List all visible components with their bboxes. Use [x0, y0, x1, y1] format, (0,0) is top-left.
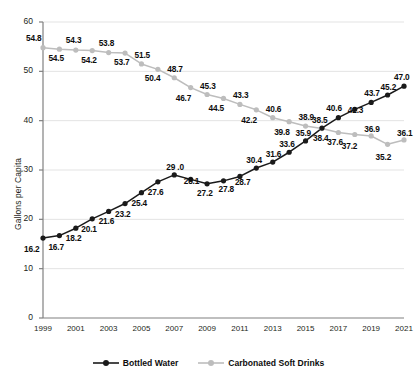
- legend-label-bottled-water: Bottled Water: [123, 358, 179, 368]
- y-tick-label: 40: [9, 115, 33, 125]
- data-point: [204, 181, 209, 186]
- data-point: [40, 235, 45, 240]
- y-tick-label: 30: [9, 164, 33, 174]
- data-label: 45.2: [381, 82, 397, 92]
- x-tick-label: 2011: [223, 324, 257, 333]
- data-point: [221, 96, 226, 101]
- data-label: 50.4: [145, 73, 161, 83]
- data-point: [57, 47, 62, 52]
- data-label: 53.8: [99, 38, 115, 48]
- y-tick-label: 10: [9, 263, 33, 273]
- data-point: [106, 50, 111, 55]
- data-point: [385, 92, 390, 97]
- data-point: [369, 133, 374, 138]
- data-label: 37.2: [342, 141, 358, 151]
- data-label: 31.6: [266, 149, 282, 159]
- data-label: 20.1: [81, 224, 97, 234]
- data-label: 36.1: [397, 128, 413, 138]
- data-point: [90, 48, 95, 53]
- legend-item-carbonated-soft-drinks[interactable]: Carbonated Soft Drinks: [198, 358, 324, 368]
- data-point: [270, 160, 275, 165]
- data-point: [172, 172, 177, 177]
- data-label: 54.3: [66, 35, 82, 45]
- data-label: 28.7: [235, 177, 251, 187]
- data-point: [73, 48, 78, 53]
- data-point: [188, 85, 193, 90]
- x-tick-label: 2019: [354, 324, 388, 333]
- data-label: 42.3: [348, 105, 364, 115]
- legend-marker-bottled-water: [93, 358, 119, 368]
- data-label: 25.4: [131, 198, 147, 208]
- data-label: 18.2: [66, 233, 82, 243]
- data-label: 23.2: [115, 209, 131, 219]
- x-tick-label: 2009: [190, 324, 224, 333]
- data-point: [172, 75, 177, 80]
- data-label: 43.7: [364, 88, 380, 98]
- data-label: 30.4: [246, 155, 262, 165]
- data-label: 46.7: [176, 93, 192, 103]
- data-point: [122, 50, 127, 55]
- data-point: [369, 100, 374, 105]
- data-label: 27.8: [219, 184, 235, 194]
- data-label: 53.7: [114, 57, 130, 67]
- x-tick-label: 2007: [157, 324, 191, 333]
- data-point: [155, 67, 160, 72]
- data-point: [287, 150, 292, 155]
- data-label: 47.0: [394, 72, 410, 82]
- data-point: [73, 226, 78, 231]
- data-point: [57, 233, 62, 238]
- data-point: [139, 190, 144, 195]
- data-label: 45.3: [200, 81, 216, 91]
- data-label: 38.9: [299, 112, 315, 122]
- data-point: [401, 84, 406, 89]
- data-label: 27.6: [148, 187, 164, 197]
- data-point: [106, 209, 111, 214]
- data-label: 40.6: [326, 103, 342, 113]
- x-tick-label: 2005: [124, 324, 158, 333]
- data-point: [90, 216, 95, 221]
- data-label: 38.4: [313, 133, 329, 143]
- y-tick-label: 60: [9, 16, 33, 26]
- data-point: [336, 115, 341, 120]
- data-label: 43.3: [233, 90, 249, 100]
- x-tick-label: 1999: [26, 324, 60, 333]
- data-label: 35.9: [296, 128, 312, 138]
- data-label: 33.6: [279, 139, 295, 149]
- data-label: 42.2: [241, 115, 257, 125]
- data-point: [336, 130, 341, 135]
- x-tick-label: 2015: [289, 324, 323, 333]
- data-point: [155, 179, 160, 184]
- data-label: 51.5: [134, 50, 150, 60]
- y-tick-label: 50: [9, 65, 33, 75]
- data-label: 21.6: [99, 216, 115, 226]
- data-point: [221, 178, 226, 183]
- data-point: [40, 45, 45, 50]
- data-point: [122, 201, 127, 206]
- data-label: 48.7: [167, 64, 183, 74]
- data-label: 54.2: [81, 55, 97, 65]
- data-label: 16.2: [24, 244, 40, 254]
- data-label: 54.5: [48, 53, 64, 63]
- data-label: 28.1: [184, 176, 200, 186]
- data-label: 36.9: [364, 124, 380, 134]
- x-tick-label: 2021: [387, 324, 417, 333]
- data-label: 54.8: [26, 33, 42, 43]
- x-tick-label: 2013: [256, 324, 290, 333]
- data-point: [237, 102, 242, 107]
- chart-container: Gallons per Capita 010203040506019992001…: [0, 0, 417, 381]
- data-label: 35.2: [376, 152, 392, 162]
- data-point: [303, 138, 308, 143]
- data-label: 16.7: [48, 242, 64, 252]
- data-label: 38.5: [312, 115, 328, 125]
- x-tick-label: 2003: [92, 324, 126, 333]
- data-point: [352, 132, 357, 137]
- y-tick-label: 20: [9, 213, 33, 223]
- x-tick-label: 2001: [59, 324, 93, 333]
- legend-item-bottled-water[interactable]: Bottled Water: [93, 358, 179, 368]
- data-label: 37.6: [327, 137, 343, 147]
- y-tick-label: 0: [9, 312, 33, 322]
- data-point: [204, 92, 209, 97]
- data-label: 39.8: [274, 127, 290, 137]
- x-tick-label: 2017: [321, 324, 355, 333]
- data-point: [319, 125, 324, 130]
